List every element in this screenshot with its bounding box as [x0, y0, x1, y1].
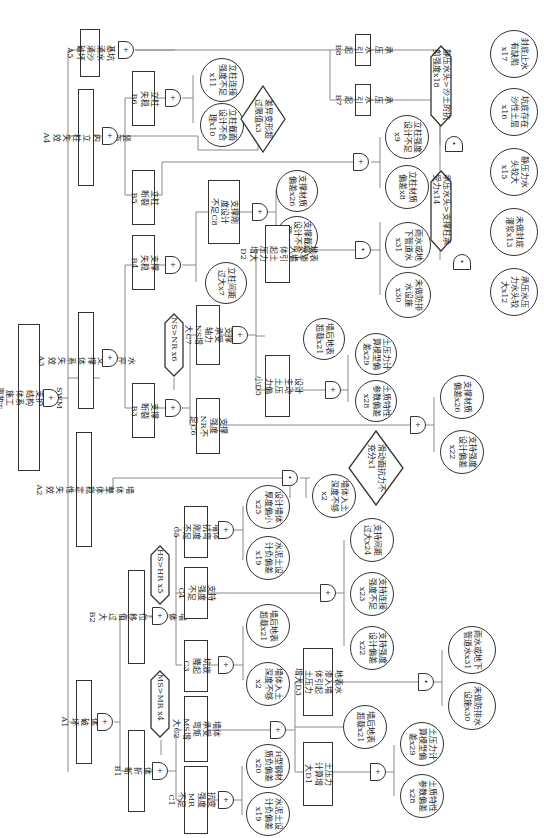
condition-label-x4: MS>MR x4: [155, 674, 165, 734]
basic-event-label-x31: 雨水或地下管道水x31: [462, 630, 482, 670]
basic-event-label-x30: 未做防排水设施x30: [393, 276, 423, 314]
event-box-B1: 墙体折断B1: [128, 730, 145, 812]
basic-event-x25: 设计墙体厚度偏小x25: [246, 485, 290, 529]
basic-event-x13: 未做封底灌浆x13: [490, 208, 538, 256]
condition-label-x14: 承压水头>支撑柱承受力x14: [431, 174, 451, 248]
fault-tree-diagram: SWM工法支护结构体系施工事故T + 基坑涌水涌沙破坏A5 + 竖直面内立柱失效…: [0, 0, 544, 838]
basic-event-x2-lower: 墙体入土深度不够x2: [246, 662, 290, 706]
basic-event-x29-lower: 土压力计算模型偏差x29: [400, 722, 444, 766]
basic-event-label-x28: 土质特性参数偏差x28: [407, 778, 437, 814]
or-gate-symbol: +: [257, 209, 263, 216]
basic-event-x19-upper: 水泥土设计负偏差x19: [246, 536, 290, 580]
event-label-A5: 基坑涌水涌沙破坏A5: [65, 44, 115, 62]
event-label-D5: 设计主动土压力偏小D5: [253, 375, 303, 398]
event-box-C1: 墙体抗变强度MR不足C1: [184, 766, 208, 834]
event-box-A4: 竖直面内立柱失效A4: [78, 89, 94, 186]
basic-event-x21-lower: 墙后地表超载x21: [343, 705, 387, 749]
basic-event-label-x29: 土压力计算模型偏差x29: [361, 337, 391, 371]
event-box-A2: 墙体整体稳定性失效A2: [76, 432, 92, 547]
event-box-A5: 基坑涌水涌沙破坏A5: [80, 29, 100, 77]
condition-label-x6: NS>NR x6: [169, 317, 179, 373]
undeveloped-label-x3: 差异变形超过限值x3: [253, 99, 273, 139]
basic-event-label-x30: 未做防排水设施x30: [462, 686, 482, 726]
basic-event-label-x2: 墙体入土深度不够x2: [319, 478, 349, 514]
event-box-B5: 立柱断裂B5: [132, 170, 155, 225]
and-gate-symbol: •: [424, 679, 428, 686]
or-gate-symbol: +: [358, 159, 364, 166]
basic-event-x26-lower: 支撑材质偏差x26: [440, 375, 484, 419]
basic-event-label-x13: 未做封底灌浆x13: [504, 213, 524, 251]
condition-label-x5: HS>HR x5: [155, 549, 165, 601]
event-box-B4: 支撑失稳B4: [132, 235, 155, 290]
basic-event-x7: 立柱间距过大x7: [205, 262, 247, 304]
event-box-B2: 墙体水平位移值过大B2: [128, 570, 145, 664]
basic-event-label-x26: 支撑材质偏差x26: [452, 379, 472, 415]
condition-x4: MS>MR x4: [150, 670, 170, 738]
or-gate-symbol: +: [325, 590, 331, 597]
condition-x5: HS>HR x5: [150, 545, 170, 605]
basic-event-label-x22: 支持强度设计偏差x22: [447, 434, 477, 470]
event-label-B2: 墙体水平位移值过大B2: [87, 610, 187, 625]
basic-event-x8: 立柱材质偏差x8: [385, 165, 429, 209]
and-gate-symbol: •: [452, 141, 456, 148]
or-gate-symbol: +: [170, 405, 176, 412]
or-gate-symbol: +: [275, 727, 281, 734]
or-gate-symbol: +: [102, 719, 108, 726]
event-box-C8: 支撑刚度设计不足C8: [208, 180, 240, 244]
event-box-C7: 支撑承受轴力NS增大C7: [196, 305, 220, 365]
basic-event-x22-upper: 支持强度设计偏差x22: [440, 430, 484, 474]
basic-event-label-x19: 水泥土设计负偏差x19: [253, 540, 283, 576]
or-gate-symbol: +: [170, 262, 176, 269]
and-gate-symbol: •: [361, 247, 365, 254]
basic-event-x15: 静压力水头较大x15: [490, 148, 538, 196]
or-gate-symbol: +: [237, 332, 243, 339]
event-label-B8: 承压水引起B8: [333, 43, 393, 57]
basic-event-x28-upper: 土质特性参数偏差x28: [355, 380, 397, 422]
or-gate-symbol: +: [223, 797, 229, 804]
or-gate-symbol: +: [107, 133, 113, 140]
basic-event-label-x21: 墙后地表超载x21: [258, 608, 278, 644]
or-gate-symbol: +: [330, 387, 336, 394]
basic-event-x22-lower: 支持强度设计偏差x22: [350, 626, 394, 670]
event-label-A2: 墙体整体稳定性失效A2: [34, 483, 134, 497]
event-box-B3: 支撑断裂B3: [132, 383, 155, 438]
event-box-C5: 墙体抗弯刚度不足C5: [184, 506, 208, 558]
or-gate-symbol: +: [415, 422, 421, 429]
basic-event-x28-lower: 土质特性参数偏差x28: [400, 774, 444, 818]
basic-event-x11: 立柱连接强度不足x11: [200, 58, 244, 102]
basic-event-x21-mid: 墙后地表超载x21: [246, 604, 290, 648]
undeveloped-label-x1: 滑动面抗力不充分x1: [366, 444, 386, 492]
basic-event-label-x28: 土质特性参数偏差x28: [361, 384, 391, 418]
basic-event-label-x20: H型钢材质负偏差x20: [253, 748, 283, 784]
basic-event-label-x21: 墙后地表超载x21: [355, 709, 375, 745]
basic-event-label-x9: 立柱强度设计不足x9: [392, 119, 422, 155]
event-label-C1: 墙体抗变强度MR不足C1: [166, 789, 226, 811]
or-gate-symbol: +: [170, 95, 176, 102]
condition-x6: NS>NR x6: [164, 313, 184, 377]
event-box-A1: 墙体破坏A1: [76, 680, 92, 764]
condition-label-x18: 静压水头>沙土的抗剪强度x18: [431, 49, 451, 123]
or-gate-symbol: +: [157, 613, 163, 620]
or-gate-symbol: +: [123, 47, 129, 54]
event-label-B3: 支撑断裂B3: [129, 400, 159, 421]
event-label-B7: 承压水引起B7: [333, 93, 393, 107]
basic-event-label-x7: 立柱间距过大x7: [216, 266, 236, 300]
event-label-C3: 坑底隆起C3: [181, 655, 211, 677]
undeveloped-x3: 差异变形超过限值x3: [240, 85, 286, 153]
basic-event-x24: 支持间距过大x24: [350, 518, 394, 562]
event-box-D5: 设计主动土压力偏小D5: [265, 355, 290, 417]
basic-event-label-x15: 静压力水头较大x15: [499, 153, 529, 191]
event-box-B6: 立柱失稳B6: [132, 71, 155, 126]
or-gate-symbol: +: [223, 527, 229, 534]
event-box-B7: 承压水引起B7: [355, 84, 371, 116]
event-label-C6: 支撑强度NR不足C6: [188, 415, 228, 437]
basic-event-x12: 承压水压力水头较大x12: [490, 268, 538, 316]
basic-event-x31: 雨水或地下管道水x31: [385, 222, 431, 268]
top-event-box: SWM工法支护结构体系施工事故T: [18, 324, 40, 471]
event-box-C2: 墙体承受弯矩MS增大C2: [184, 696, 208, 762]
basic-event-x17: 封底止水有缺陷x17: [490, 30, 538, 78]
basic-event-label-x17: 封底止水有缺陷x17: [499, 35, 529, 73]
basic-event-label-x12: 承压水压力水头较大x12: [499, 273, 529, 311]
event-box-D2: 地表水渗入墙体引起土压力增大D2: [265, 225, 290, 283]
event-box-B8: 承压水引起B8: [355, 34, 371, 66]
